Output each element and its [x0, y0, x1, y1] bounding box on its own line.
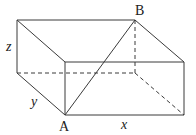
box-diagram: B A z y x: [0, 0, 196, 135]
edge-top-right: [135, 20, 184, 62]
label-point-a: A: [59, 119, 70, 134]
edge-top-left: [17, 20, 65, 62]
label-length-x: x: [120, 117, 128, 132]
diagonal-ab: [65, 20, 135, 115]
label-height-z: z: [5, 39, 12, 54]
label-width-y: y: [29, 94, 38, 109]
hidden-edge-bottom-right: [135, 73, 184, 115]
edge-bottom-left: [17, 73, 65, 115]
label-point-b: B: [135, 3, 144, 18]
